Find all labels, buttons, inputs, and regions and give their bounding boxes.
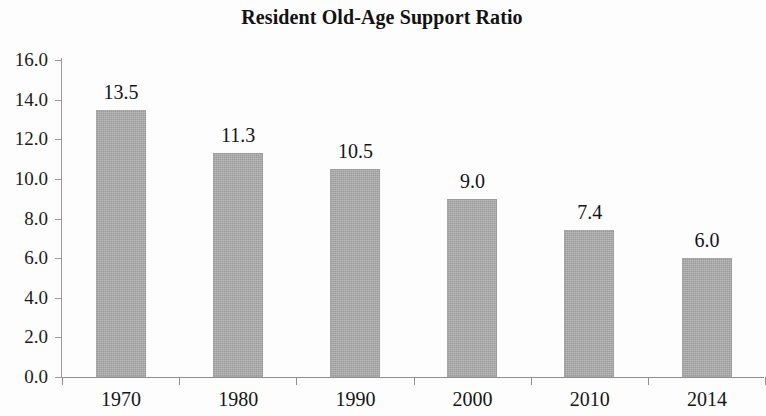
y-axis-tick (55, 139, 62, 140)
y-axis-tick-label: 10.0 (0, 169, 48, 188)
x-axis-category-label: 2000 (414, 386, 532, 412)
bar (330, 169, 380, 377)
y-axis-tick-label: 16.0 (0, 50, 48, 69)
y-axis-tick (55, 179, 62, 180)
bar-value-label: 7.4 (531, 201, 649, 223)
y-axis-tick-label: 14.0 (0, 90, 48, 109)
y-axis-tick (55, 219, 62, 220)
y-axis-tick-label: 8.0 (0, 209, 48, 228)
y-axis-tick-label: 4.0 (0, 288, 48, 307)
bar-value-label: 10.5 (296, 140, 414, 162)
x-axis-tick (414, 377, 415, 385)
x-axis-category-label: 2010 (531, 386, 649, 412)
bar-value-label: 6.0 (648, 229, 766, 251)
x-axis-line (61, 377, 764, 378)
bar (564, 230, 614, 377)
y-axis-tick (55, 298, 62, 299)
bar (96, 110, 146, 377)
x-axis-category-label: 1980 (179, 386, 297, 412)
bar-value-label: 13.5 (62, 81, 180, 103)
bar (682, 258, 732, 377)
y-axis-tick (55, 100, 62, 101)
bar (447, 199, 497, 377)
bar-value-label: 9.0 (414, 170, 532, 192)
y-axis-tick (55, 377, 62, 378)
y-axis-tick-label: 12.0 (0, 129, 48, 148)
x-axis-tick (648, 377, 649, 385)
x-axis-tick (179, 377, 180, 385)
x-axis-tick (531, 377, 532, 385)
x-axis-category-label: 2014 (648, 386, 766, 412)
y-axis-tick (55, 337, 62, 338)
x-axis-tick (62, 377, 63, 385)
bar (213, 153, 263, 377)
x-axis-category-label: 1990 (296, 386, 414, 412)
y-axis-tick-label: 0.0 (0, 367, 48, 386)
chart-title: Resident Old-Age Support Ratio (0, 6, 764, 29)
y-axis-tick-label: 2.0 (0, 327, 48, 346)
x-axis-category-label: 1970 (62, 386, 180, 412)
y-axis-tick (55, 60, 62, 61)
x-axis-tick (296, 377, 297, 385)
bar-value-label: 11.3 (179, 124, 297, 146)
y-axis-tick-label: 6.0 (0, 248, 48, 267)
y-axis-tick (55, 258, 62, 259)
